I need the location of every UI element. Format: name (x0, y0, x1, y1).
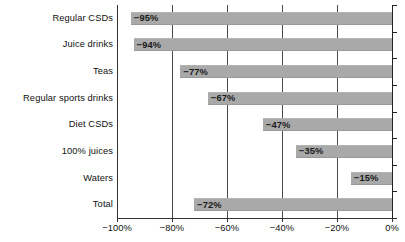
bar-row: Diet CSDs−47% (0, 112, 405, 139)
category-label: Regular CSDs (0, 13, 113, 24)
bar[interactable]: −95% (131, 12, 392, 25)
x-tick-label: 0% (385, 222, 399, 234)
bar[interactable]: −72% (194, 198, 392, 211)
bar[interactable]: −94% (134, 38, 393, 51)
x-tick-mark (227, 218, 228, 222)
category-label: 100% juices (0, 146, 113, 157)
bar-row: Juice drinks−94% (0, 32, 405, 59)
bar-row: Regular CSDs−95% (0, 5, 405, 32)
bar-row: 100% juices−35% (0, 138, 405, 165)
bar-row: Waters−15% (0, 165, 405, 192)
bar-value-label: −15% (354, 173, 379, 183)
bar-value-label: −47% (266, 120, 291, 130)
category-label: Total (0, 199, 113, 210)
right-axis-tick (392, 112, 397, 113)
bar-rows: Regular CSDs−95%Juice drinks−94%Teas−77%… (0, 5, 405, 218)
bar-row: Regular sports drinks−67% (0, 85, 405, 112)
bar-row: Total−72% (0, 191, 405, 218)
x-tick-mark (337, 218, 338, 222)
bar[interactable]: −67% (208, 92, 392, 105)
right-axis-tick (392, 85, 397, 86)
bar-track: −95% (117, 5, 392, 32)
category-label: Juice drinks (0, 39, 113, 50)
right-axis-tick (392, 58, 397, 59)
x-tick-label: −40% (270, 222, 294, 234)
right-axis-tick (392, 32, 397, 33)
x-axis-baseline (117, 218, 393, 219)
bar[interactable]: −15% (351, 172, 392, 185)
x-tick-label: −80% (160, 222, 184, 234)
right-axis-tick (392, 191, 397, 192)
bar-value-label: −35% (299, 146, 324, 156)
x-tick-mark (392, 218, 393, 222)
category-label: Regular sports drinks (0, 93, 113, 104)
bar-track: −72% (117, 191, 392, 218)
bar[interactable]: −35% (296, 145, 392, 158)
x-axis-tick-labels: −100%−80%−60%−40%−20%0% (0, 222, 405, 238)
bar[interactable]: −47% (263, 118, 392, 131)
bar[interactable]: −77% (180, 65, 392, 78)
right-axis-tick (392, 165, 397, 166)
right-axis-tick (392, 5, 397, 6)
bar-value-label: −94% (137, 40, 162, 50)
category-label: Waters (0, 173, 113, 184)
bar-track: −77% (117, 58, 392, 85)
bar-track: −47% (117, 112, 392, 139)
bar-chart: Regular CSDs−95%Juice drinks−94%Teas−77%… (0, 0, 405, 242)
bar-track: −15% (117, 165, 392, 192)
right-axis-tick (392, 138, 397, 139)
x-tick-label: −20% (325, 222, 349, 234)
x-tick-mark (172, 218, 173, 222)
bar-value-label: −67% (211, 93, 236, 103)
x-tick-label: −100% (102, 222, 132, 234)
bar-value-label: −72% (197, 200, 222, 210)
category-label: Teas (0, 66, 113, 77)
bar-value-label: −77% (183, 67, 208, 77)
bar-track: −67% (117, 85, 392, 112)
x-tick-label: −60% (215, 222, 239, 234)
x-tick-mark (117, 218, 118, 222)
bar-row: Teas−77% (0, 58, 405, 85)
bar-track: −35% (117, 138, 392, 165)
bar-value-label: −95% (134, 13, 159, 23)
bar-track: −94% (117, 32, 392, 59)
x-tick-mark (282, 218, 283, 222)
category-label: Diet CSDs (0, 119, 113, 130)
